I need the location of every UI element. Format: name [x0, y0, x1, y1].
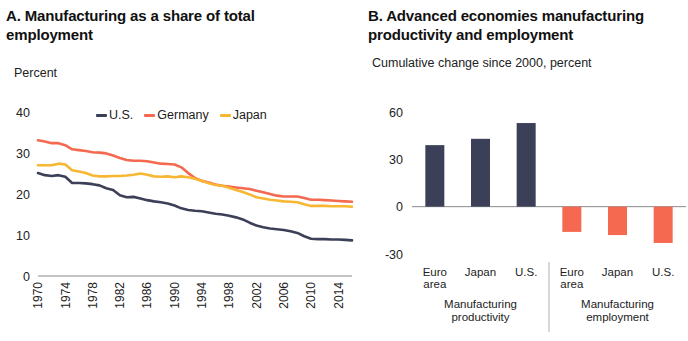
figure-container: A. Manufacturing as a share of total emp… [0, 0, 688, 341]
panel-a-xtick-1986: 1986 [140, 282, 154, 309]
panel-a-xtick-2006: 2006 [277, 282, 291, 309]
panel-a-series-us [38, 173, 352, 240]
svg-text:1982: 1982 [113, 282, 127, 309]
panel-a-xtick-1994: 1994 [195, 282, 209, 309]
svg-text:1978: 1978 [86, 282, 100, 309]
panel-a-xtick-1978: 1978 [86, 282, 100, 309]
panel-a-xtick-1998: 1998 [222, 282, 236, 309]
svg-text:2014: 2014 [332, 282, 346, 309]
panel-b-group-label-1: Manufacturingemployment [581, 298, 654, 323]
panel-a-axis-note: Percent [14, 66, 360, 81]
panel-b-category-label-1: Japan [465, 266, 496, 278]
svg-text:2002: 2002 [250, 282, 264, 309]
panel-b: B. Advanced economies manufacturing prod… [360, 0, 688, 341]
panel-a-title: A. Manufacturing as a share of total emp… [6, 6, 336, 44]
panel-b-plot: -3003060EuroareaJapanU.S.EuroareaJapanU.… [360, 104, 688, 341]
svg-text:area: area [560, 278, 584, 290]
svg-text:1998: 1998 [222, 282, 236, 309]
panel-a-plot: 0102030401970197419781982198619901994199… [0, 104, 360, 341]
svg-text:employment: employment [586, 311, 649, 323]
panel-b-category-label-5: U.S. [652, 266, 674, 278]
panel-a-ytick-40: 40 [16, 106, 30, 120]
panel-b-category-label-3: Euroarea [560, 266, 584, 290]
panel-b-bar-0 [425, 145, 444, 207]
panel-a-series-germany [38, 140, 352, 202]
panel-b-bar-chart: -3003060EuroareaJapanU.S.EuroareaJapanU.… [360, 104, 688, 341]
svg-text:Manufacturing: Manufacturing [581, 298, 654, 310]
panel-b-ytick-30: 30 [389, 153, 403, 167]
panel-a-ytick-30: 30 [16, 147, 30, 161]
panel-a-ytick-20: 20 [16, 188, 30, 202]
panel-a-xtick-2002: 2002 [250, 282, 264, 309]
panel-a-xtick-1970: 1970 [31, 282, 45, 309]
svg-text:Japan: Japan [465, 266, 496, 278]
panel-b-axis-note: Cumulative change since 2000, percent [372, 56, 688, 71]
svg-text:Japan: Japan [602, 266, 633, 278]
panel-b-ytick--30: -30 [385, 248, 403, 262]
panel-b-bar-3 [562, 207, 581, 232]
panel-b-category-label-2: U.S. [515, 266, 537, 278]
svg-text:Euro: Euro [423, 266, 447, 278]
svg-text:1970: 1970 [31, 282, 45, 309]
svg-text:1994: 1994 [195, 282, 209, 309]
panel-b-category-label-4: Japan [602, 266, 633, 278]
svg-text:Euro: Euro [560, 266, 584, 278]
panel-b-ytick-0: 0 [396, 200, 403, 214]
panel-b-bar-1 [471, 139, 490, 207]
panel-a-series-japan [38, 164, 352, 207]
panel-b-group-label-0: Manufacturingproductivity [444, 298, 517, 323]
panel-a-ytick-10: 10 [16, 229, 30, 243]
svg-text:2006: 2006 [277, 282, 291, 309]
svg-text:area: area [423, 278, 447, 290]
svg-text:1986: 1986 [140, 282, 154, 309]
svg-text:Manufacturing: Manufacturing [444, 298, 517, 310]
panel-a-xtick-2010: 2010 [304, 282, 318, 309]
panel-a-xtick-1974: 1974 [59, 282, 73, 309]
panel-a-xtick-1982: 1982 [113, 282, 127, 309]
svg-text:productivity: productivity [451, 311, 509, 323]
panel-a-line-chart: 0102030401970197419781982198619901994199… [0, 104, 360, 341]
svg-text:U.S.: U.S. [652, 266, 674, 278]
panel-a: A. Manufacturing as a share of total emp… [0, 0, 360, 341]
panel-b-bar-2 [517, 123, 536, 207]
svg-text:U.S.: U.S. [515, 266, 537, 278]
svg-text:1990: 1990 [168, 282, 182, 309]
panel-a-xtick-2014: 2014 [332, 282, 346, 309]
panel-b-ytick-60: 60 [389, 106, 403, 120]
panel-a-xtick-1990: 1990 [168, 282, 182, 309]
svg-text:1974: 1974 [59, 282, 73, 309]
panel-b-category-label-0: Euroarea [423, 266, 447, 290]
panel-b-bar-4 [608, 207, 627, 235]
panel-a-ytick-0: 0 [23, 270, 30, 284]
panel-b-title: B. Advanced economies manufacturing prod… [368, 6, 668, 44]
panel-b-bar-5 [654, 207, 673, 243]
svg-text:2010: 2010 [304, 282, 318, 309]
